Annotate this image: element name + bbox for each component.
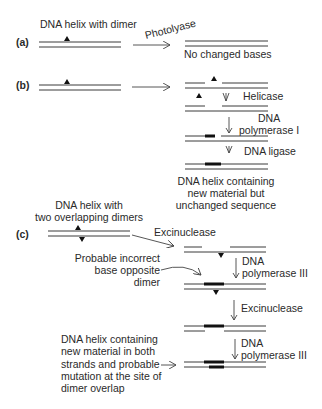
step-dna: DNA [258,112,280,124]
down-arrow-icon [233,258,239,278]
panel-c-result-line-1: DNA helix containing [61,333,158,345]
note-line-1: Probable incorrect [75,252,160,264]
panel-b-result-line-3: unchanged sequence [176,199,277,211]
step-polymerase-i: polymerase I [239,124,299,136]
panel-b: (b) Helicase DNA polymerase I [16,76,299,211]
excised-dimer-icon [196,93,202,98]
panel-b-result-line-2: new material but [187,187,264,199]
down-arrow-icon [223,93,229,101]
down-arrow-icon [232,339,238,359]
dna-helix-with-dimer [39,36,121,47]
repaired-helix [185,41,268,46]
excised-helix-c2 [184,326,266,331]
final-helix [184,362,266,367]
enzyme-photolyase: Photolyase [144,17,197,41]
panel-c: (c) DNA helix with two overlapping dimer… [16,199,308,394]
down-arrow-icon [226,117,232,133]
step-excinuclease-c2: Excinuclease [241,302,303,314]
note-line-3: dimer [134,276,161,288]
curved-arrow-icon [161,267,201,275]
step-dna-c1: DNA [242,255,264,267]
down-arrow-icon [226,146,232,153]
step-dna-c3: DNA [241,337,263,349]
dna-helix-with-dimer-b [39,79,121,90]
dimer-icon [211,76,217,81]
step-polymerase-iii-c1: polymerase III [242,267,308,279]
dimer-icon [213,290,219,295]
dna-helix-with-two-dimers [48,225,130,242]
dimer-icon [64,79,70,84]
gapped-helix [185,106,268,111]
dimer-icon [64,36,70,41]
panel-b-result-line-1: DNA helix containing [178,175,275,187]
panel-a-result-caption: No changed bases [184,48,272,60]
panel-c-input-line-2: two overlapping dimers [35,211,143,223]
enzyme-excinuclease: Excinuclease [154,226,216,238]
panel-c-input-line-1: DNA helix with [55,199,123,211]
panel-label-a: (a) [16,36,29,48]
filled-helix-c [184,284,266,295]
dimer-icon [75,225,81,230]
panel-c-result-line-4: mutation at the site of [61,370,161,382]
dimer-icon [218,253,224,258]
note-line-2: base opposite [95,264,161,276]
filled-helix [185,136,268,141]
incised-helix [185,76,268,88]
panel-c-result-line-3: strands and probable [61,358,160,370]
down-arrow-icon [231,300,237,320]
dimer-icon [79,237,85,242]
panel-label-b: (b) [16,79,29,91]
panel-a: (a) DNA helix with dimer Photolyase No c… [16,17,272,60]
panel-c-result-line-5: dimer overlap [61,382,125,394]
ligated-helix [185,164,268,169]
panel-a-input-caption: DNA helix with dimer [40,18,137,30]
step-dna-ligase: DNA ligase [244,145,296,157]
step-helicase: Helicase [243,90,283,102]
panel-label-c: (c) [16,228,29,240]
step-polymerase-iii-c3: polymerase III [241,349,307,361]
panel-c-result-line-2: new material in both [61,345,155,357]
dna-repair-diagram: (a) DNA helix with dimer Photolyase No c… [0,0,322,409]
